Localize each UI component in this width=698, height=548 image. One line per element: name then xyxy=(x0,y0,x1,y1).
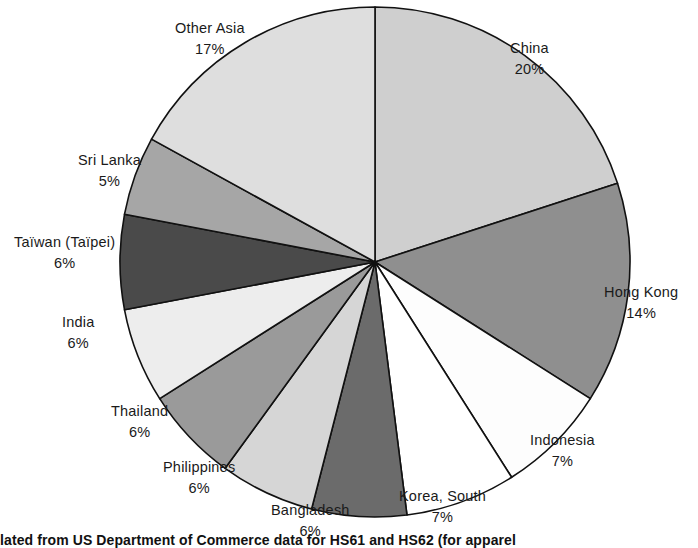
pie-slice-label: Taïwan (Taïpei)6% xyxy=(14,232,115,274)
pie-slice-label-value: 5% xyxy=(78,171,141,192)
pie-slice-label: Philippines6% xyxy=(163,457,235,499)
pie-slice-label: Indonesia7% xyxy=(530,430,595,472)
pie-slice-label-name: Korea, South xyxy=(399,486,486,507)
pie-slice-label-value: 7% xyxy=(530,451,595,472)
pie-slice-label-name: Sri Lanka xyxy=(78,150,141,171)
pie-slice-label: Thailand6% xyxy=(111,401,168,443)
pie-slice-label-value: 6% xyxy=(14,253,115,274)
pie-slice-label-value: 6% xyxy=(62,333,94,354)
pie-slice-label-name: China xyxy=(510,38,549,59)
pie-slice-label: Hong Kong14% xyxy=(604,282,678,324)
pie-slice-label-value: 20% xyxy=(510,59,549,80)
pie-slice-label-name: Thailand xyxy=(111,401,168,422)
pie-slice-label: Other Asia17% xyxy=(175,18,245,60)
figure-caption: lated from US Department of Commerce dat… xyxy=(0,532,698,548)
pie-slice-label-value: 7% xyxy=(399,507,486,528)
pie-slice-label-name: Hong Kong xyxy=(604,282,678,303)
pie-slice-label-value: 14% xyxy=(604,303,678,324)
pie-slice-label-value: 17% xyxy=(175,39,245,60)
pie-slice-label-value: 6% xyxy=(163,478,235,499)
pie-slice-label-value: 6% xyxy=(111,422,168,443)
pie-slice-label: China20% xyxy=(510,38,549,80)
pie-slice-label-name: Indonesia xyxy=(530,430,595,451)
pie-slice-label-name: Bangladesh xyxy=(271,500,350,521)
pie-slice-label-name: Philippines xyxy=(163,457,235,478)
pie-slice-label: India6% xyxy=(62,312,94,354)
pie-slice-label-name: Taïwan (Taïpei) xyxy=(14,232,115,253)
pie-slice-label: Sri Lanka5% xyxy=(78,150,141,192)
pie-slice-label-name: India xyxy=(62,312,94,333)
pie-slice-label-name: Other Asia xyxy=(175,18,245,39)
pie-slice-label: Korea, South7% xyxy=(399,486,486,528)
